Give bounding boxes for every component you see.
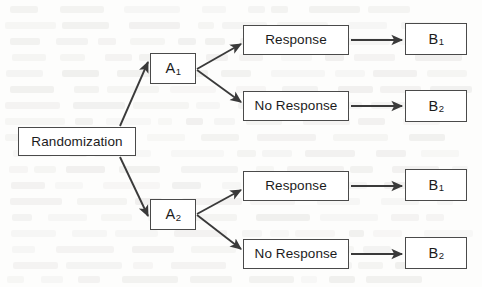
edge-root-to-a1 [120, 62, 148, 126]
node-b2bot[interactable]: B2 [405, 237, 467, 269]
edge-root-to-a2 [120, 157, 148, 216]
node-a2-label: A [165, 207, 175, 222]
node-a2[interactable]: A2 [150, 199, 196, 230]
node-a1[interactable]: A1 [150, 53, 196, 84]
edge-a1-to-r1 [197, 44, 241, 69]
node-a1-label: A [165, 61, 175, 76]
node-nr2[interactable]: No Response [243, 239, 349, 269]
node-b1top-label: B [428, 32, 438, 47]
node-b1top[interactable]: B1 [405, 23, 467, 55]
edge-a2-to-r2 [197, 190, 241, 214]
node-root[interactable]: Randomization [18, 127, 136, 156]
node-nr2-label: No Response [255, 247, 338, 261]
node-b2top-label: B [428, 99, 438, 114]
node-b2top[interactable]: B2 [405, 90, 467, 122]
node-b1bot[interactable]: B1 [405, 169, 467, 201]
node-nr1[interactable]: No Response [243, 91, 349, 121]
edge-a1-to-nr1 [197, 70, 241, 102]
node-b1bot-label: B [428, 178, 438, 193]
node-r2[interactable]: Response [243, 171, 349, 201]
flowchart-canvas: RandomizationA1A2ResponseNo ResponseResp… [0, 0, 482, 287]
node-nr1-label: No Response [255, 99, 338, 113]
node-r1[interactable]: Response [243, 25, 349, 55]
node-b2bot-label: B [428, 246, 438, 261]
node-r1-label: Response [265, 33, 327, 47]
edge-a2-to-nr2 [197, 215, 241, 249]
node-root-label: Randomization [31, 135, 122, 149]
node-r2-label: Response [265, 179, 327, 193]
